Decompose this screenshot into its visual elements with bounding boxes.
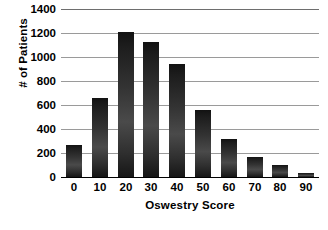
bar (118, 32, 134, 177)
bar-series (61, 9, 319, 177)
x-axis-line (61, 177, 319, 178)
plot-area (61, 9, 319, 177)
x-tick-label: 70 (242, 180, 268, 194)
x-tick-label: 50 (190, 180, 216, 194)
bar (272, 165, 288, 177)
bar-chart-figure: # of Patients 0200400600800100012001400 … (0, 0, 328, 230)
y-tick-label: 1000 (16, 52, 56, 63)
bar (66, 145, 82, 177)
bar (92, 98, 108, 177)
bar (143, 42, 159, 177)
x-tick-label: 20 (113, 180, 139, 194)
y-tick-label: 0 (16, 172, 56, 183)
x-axis-title: Oswestry Score (61, 199, 319, 211)
y-tick-label: 1400 (16, 4, 56, 15)
x-tick-label: 90 (293, 180, 319, 194)
x-tick-label: 80 (267, 180, 293, 194)
x-tick-label: 30 (138, 180, 164, 194)
y-tick-label: 200 (16, 148, 56, 159)
y-tick-label: 400 (16, 124, 56, 135)
bar (298, 173, 314, 177)
bar (221, 139, 237, 177)
bar (247, 157, 263, 177)
bar (169, 64, 185, 177)
x-tick-label: 10 (87, 180, 113, 194)
y-tick-label: 800 (16, 76, 56, 87)
x-tick-label: 0 (61, 180, 87, 194)
x-tick-label: 60 (216, 180, 242, 194)
x-axis-tick-labels: 0102030405060708090 (61, 180, 319, 196)
y-axis-tick-labels: 0200400600800100012001400 (16, 9, 56, 177)
x-tick-label: 40 (164, 180, 190, 194)
y-tick-label: 1200 (16, 28, 56, 39)
y-tick-label: 600 (16, 100, 56, 111)
bar (195, 110, 211, 177)
